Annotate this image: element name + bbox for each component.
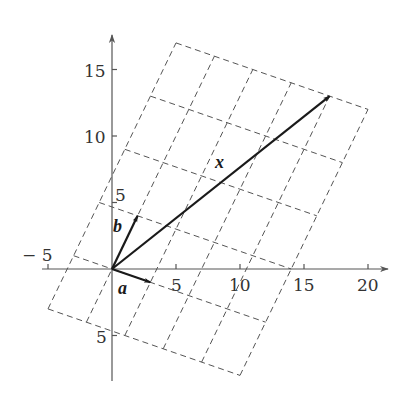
y-tick-label: 5 [115, 185, 126, 205]
vector-b-label: b [113, 216, 122, 236]
vectors [112, 96, 330, 282]
x-tick-label: 5 [171, 275, 182, 295]
plot-canvas: − 55101520510155 a b x [0, 0, 419, 413]
axis-ticks: − 55101520510155 [22, 61, 379, 347]
x-tick-label: 15 [293, 275, 315, 295]
coordinate-axes [42, 35, 388, 381]
y-tick-label: 10 [84, 127, 106, 147]
y-tick-label: 15 [84, 61, 106, 81]
vector-x-label: x [214, 152, 224, 172]
y-tick-label: 5 [96, 327, 107, 347]
x-tick-label: 20 [357, 275, 379, 295]
vector-a-label: a [118, 278, 127, 298]
x-tick-label: 10 [229, 275, 251, 295]
x-tick-label: − 5 [22, 245, 52, 265]
vector-diagram: − 55101520510155 a b x [0, 0, 419, 413]
vector-x-arrow [112, 96, 330, 269]
